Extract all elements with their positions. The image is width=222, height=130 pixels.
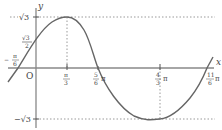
x-label-neg-pi6-num: π	[13, 52, 17, 59]
y-label-neg-sqrt3: −√3	[14, 115, 31, 124]
x-label-5pi6-pi: π	[101, 75, 106, 83]
x-label-11pi6-num: 11	[207, 71, 215, 78]
x-label-pi3-den: 3	[64, 79, 68, 86]
x-label-5pi6-num: 5	[94, 71, 98, 78]
x-label-pi3-num: π	[64, 71, 68, 78]
x-label-neg-pi6-den: 6	[13, 60, 17, 67]
x-label-4pi3-pi: π	[163, 75, 168, 83]
x-label-4pi3-num: 4	[156, 71, 160, 78]
y-label-half-den: 2	[25, 42, 29, 49]
x-label-neg-pi6-sign: −	[4, 56, 9, 63]
origin-label: O	[26, 71, 33, 81]
x-label-4pi3-den: 3	[156, 79, 160, 86]
y-label-sqrt3: √3	[19, 13, 29, 22]
x-label-11pi6-den: 6	[208, 79, 212, 86]
y-label-half-num: √3	[22, 34, 30, 41]
y-axis-label: y	[37, 1, 44, 11]
x-axis-label: x	[216, 57, 221, 67]
x-label-11pi6-pi: π	[215, 75, 220, 83]
x-label-5pi6-den: 6	[94, 79, 98, 86]
sine-graph: y x O √3 −√3 √3 2 − π 6 π 3 5 6 π 4 3 π …	[0, 0, 222, 130]
